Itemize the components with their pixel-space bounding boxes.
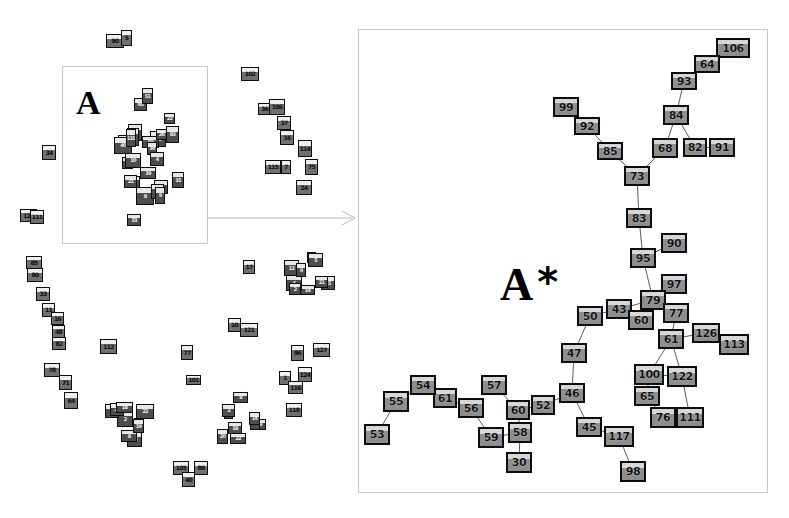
graph-node[interactable]: 113 [719, 334, 749, 355]
overview-graph-node[interactable]: 77 [181, 345, 193, 360]
graph-node[interactable]: 59 [478, 427, 504, 448]
region-label-a-star: A* [500, 262, 558, 308]
overview-graph-node[interactable]: 21 [124, 175, 137, 188]
graph-node[interactable]: 53 [364, 424, 390, 445]
overview-graph-node[interactable]: 20 [217, 429, 228, 444]
overview-graph-node[interactable]: 2 [222, 404, 235, 417]
graph-node[interactable]: 47 [561, 343, 587, 363]
overview-graph-node[interactable]: 82 [52, 337, 66, 350]
graph-node[interactable]: 65 [634, 386, 660, 406]
overview-graph-node[interactable]: 78 [44, 363, 60, 377]
overview-graph-node[interactable]: 18 [116, 402, 133, 413]
overview-graph-node[interactable]: 101 [186, 375, 201, 385]
graph-node[interactable]: 100 [634, 364, 664, 385]
overview-graph-node[interactable]: 83 [166, 126, 179, 143]
overview-graph-node[interactable]: 75 [305, 159, 318, 175]
overview-graph-node[interactable]: 37 [277, 116, 291, 130]
overview-graph-node[interactable]: 102 [241, 67, 259, 81]
overview-graph-node[interactable]: 8 [233, 392, 248, 403]
overview-graph-node[interactable]: 14 [300, 285, 315, 295]
overview-graph-node[interactable]: 111 [30, 210, 44, 224]
overview-graph-node[interactable]: 80 [27, 268, 43, 282]
overview-graph-node[interactable]: 127 [313, 343, 330, 357]
overview-graph-node[interactable]: 96 [291, 345, 304, 361]
overview-graph-node[interactable]: 5 [121, 30, 132, 46]
graph-node[interactable]: 77 [663, 303, 689, 323]
region-label-a: A [76, 86, 101, 120]
overview-graph-node[interactable]: 22 [164, 113, 175, 124]
overview-graph-node[interactable]: 22 [230, 433, 246, 444]
graph-node[interactable]: 60 [506, 400, 530, 420]
graph-node[interactable]: 95 [630, 248, 656, 268]
overview-graph-node[interactable]: 33 [127, 214, 141, 226]
graph-node[interactable]: 56 [458, 398, 484, 418]
graph-node[interactable]: 126 [692, 323, 720, 343]
graph-node[interactable]: 30 [506, 452, 532, 473]
overview-graph-node[interactable]: 7 [281, 160, 291, 174]
graph-node[interactable]: 91 [709, 138, 735, 157]
graph-node[interactable]: 52 [531, 395, 555, 415]
graph-node[interactable]: 61 [658, 329, 684, 349]
overview-graph-node[interactable]: 121 [240, 323, 258, 337]
graph-node[interactable]: 73 [624, 166, 650, 186]
letter-a: A [76, 84, 101, 121]
overview-graph-node[interactable]: 22 [136, 404, 154, 419]
graph-node[interactable]: 64 [694, 55, 720, 73]
overview-graph-node[interactable]: 24 [296, 180, 312, 195]
graph-node[interactable]: 106 [716, 38, 750, 58]
graph-node[interactable]: 122 [667, 366, 697, 387]
overview-graph-node[interactable]: 112 [100, 339, 117, 354]
overview-graph-node[interactable]: 16 [280, 130, 294, 145]
overview-graph-node[interactable]: 64 [64, 392, 78, 409]
overview-graph-node[interactable]: 14 [249, 412, 260, 425]
overview-graph-node[interactable]: 39 [140, 167, 156, 179]
overview-graph-node[interactable]: 114 [298, 140, 312, 157]
overview-graph-node[interactable]: 34 [42, 145, 56, 160]
graph-node[interactable]: 92 [574, 117, 600, 135]
overview-graph-node[interactable]: 16 [51, 312, 64, 325]
overview-graph-node[interactable]: 51 [142, 88, 153, 104]
overview-graph-node[interactable]: 4 [150, 152, 164, 166]
graph-node[interactable]: 98 [620, 461, 646, 482]
overview-graph-node[interactable]: 2 [289, 283, 301, 295]
overview-graph-node[interactable]: 21 [315, 276, 328, 288]
graph-node[interactable]: 68 [652, 138, 678, 158]
graph-node[interactable]: 76 [650, 407, 676, 428]
graph-node[interactable]: 83 [626, 208, 652, 228]
graph-node[interactable]: 82 [683, 138, 707, 157]
graph-node[interactable]: 84 [663, 105, 689, 125]
overview-graph-node[interactable]: 116 [288, 381, 303, 394]
overview-graph-node[interactable]: 40 [182, 472, 195, 487]
overview-graph-node[interactable]: 19 [133, 419, 144, 433]
overview-graph-node[interactable]: 115 [265, 160, 281, 174]
overview-graph-node[interactable]: 118 [286, 403, 302, 417]
overview-graph-node[interactable]: 124 [298, 367, 312, 382]
graph-node[interactable]: 117 [604, 426, 634, 447]
graph-node[interactable]: 60 [628, 310, 654, 330]
overview-graph-node[interactable]: 15 [172, 172, 184, 188]
overview-graph-node[interactable]: 106 [269, 99, 285, 115]
overview-graph-node[interactable]: 10 [125, 153, 141, 168]
graph-node[interactable]: 90 [661, 233, 687, 253]
graph-node[interactable]: 99 [553, 97, 579, 117]
graph-node[interactable]: 46 [559, 383, 585, 403]
graph-node[interactable]: 55 [383, 391, 409, 412]
overview-graph-node[interactable]: 115 [126, 129, 136, 147]
graph-node[interactable]: 111 [676, 407, 704, 428]
graph-node[interactable]: 45 [576, 417, 602, 437]
graph-node[interactable]: 93 [671, 72, 697, 90]
overview-graph-node[interactable]: 33 [36, 287, 50, 301]
overview-graph-node[interactable]: 5 [308, 253, 323, 267]
overview-graph-node[interactable]: 9 [155, 187, 165, 204]
graph-node[interactable]: 54 [410, 375, 436, 395]
graph-node[interactable]: 50 [577, 306, 603, 326]
graph-node[interactable]: 57 [481, 375, 507, 395]
overview-graph-node[interactable]: 71 [59, 375, 72, 390]
graph-node[interactable]: 85 [597, 142, 623, 160]
overview-graph-node[interactable]: 18 [228, 422, 242, 434]
overview-graph-node[interactable]: 9 [296, 263, 306, 277]
overview-graph-node[interactable]: 17 [243, 260, 255, 274]
graph-node[interactable]: 61 [433, 388, 457, 408]
graph-node[interactable]: 58 [508, 422, 532, 443]
overview-graph-node[interactable]: 89 [194, 461, 208, 475]
